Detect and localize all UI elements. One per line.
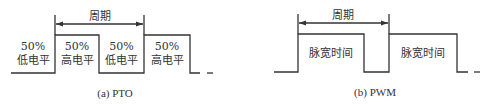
segment-level: 高电平 [144, 54, 190, 68]
segment-duty: 50% [11, 40, 55, 54]
segment-duty: 50% [99, 40, 144, 54]
pwm-pulse-2: 脉宽时间 [389, 47, 457, 61]
pto-segment-1: 50% 低电平 [11, 40, 55, 68]
arrowhead-right-icon [136, 22, 143, 27]
pwm-pulse-1: 脉宽时间 [298, 47, 364, 61]
arrowhead-left-icon [299, 21, 306, 26]
segment-duty: 50% [144, 40, 190, 54]
pto-segment-3: 50% 低电平 [99, 40, 144, 68]
arrowhead-left-icon [56, 22, 63, 27]
segment-level: 低电平 [99, 54, 144, 68]
pto-segment-2: 50% 高电平 [55, 40, 99, 68]
pwm-period-label: 周期 [325, 9, 361, 23]
arrowhead-right-icon [381, 21, 388, 26]
segment-duty: 50% [55, 40, 99, 54]
pto-period-label: 周期 [82, 10, 118, 24]
pto-segment-4: 50% 高电平 [144, 40, 190, 68]
pto-caption: (a) PTO [80, 87, 150, 99]
segment-level: 高电平 [55, 54, 99, 68]
pwm-caption: (b) PWM [335, 86, 415, 98]
segment-level: 低电平 [11, 54, 55, 68]
